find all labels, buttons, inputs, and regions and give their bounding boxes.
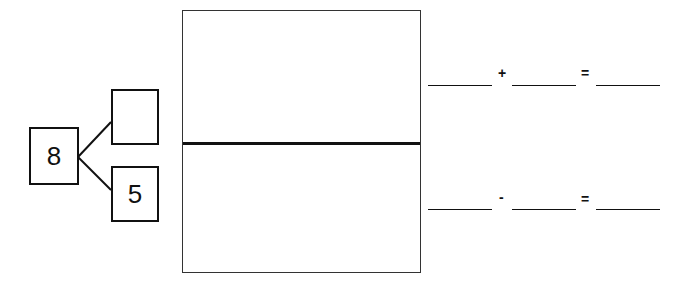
equals-sign: = [581,66,589,80]
difference-blank[interactable] [596,209,660,210]
drawing-panel[interactable] [182,10,421,273]
whole-number-box: 8 [29,127,79,185]
whole-number: 8 [47,141,61,172]
part-bottom-box: 5 [111,166,159,222]
part-bottom-value: 5 [128,179,142,210]
addition-equation: + = [428,66,662,86]
sum-blank[interactable] [596,85,660,86]
panel-bottom-section[interactable] [183,145,420,272]
addend-2-blank[interactable] [512,85,576,86]
part-top-box[interactable] [111,89,159,145]
subtrahend-blank[interactable] [512,209,576,210]
equals-sign: = [581,192,589,206]
plus-sign: + [498,66,506,80]
panel-top-section[interactable] [183,11,420,142]
subtraction-equation: - = [428,190,662,210]
addend-1-blank[interactable] [428,85,492,86]
minus-sign: - [499,190,504,204]
minuend-blank[interactable] [428,209,492,210]
